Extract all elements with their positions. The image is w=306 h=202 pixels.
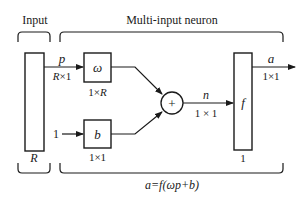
input-size-label: R xyxy=(29,151,38,165)
bias-dims: 1×1 xyxy=(89,151,106,163)
output-symbol: a xyxy=(268,51,275,66)
input-p-label: p xyxy=(58,51,66,66)
transfer-symbol: f xyxy=(241,95,247,110)
input-top-bracket xyxy=(18,32,50,42)
weight-to-sum-arrow xyxy=(111,67,162,94)
neuron-section-label: Multi-input neuron xyxy=(126,13,218,27)
neuron-formula: a=f(ωp+b) xyxy=(145,178,199,192)
neuron-bottom-bracket xyxy=(60,163,283,173)
bias-to-sum-arrow xyxy=(111,112,162,134)
weight-dims: 1×R xyxy=(88,86,107,98)
bias-symbol: b xyxy=(94,127,101,142)
neuron-top-bracket xyxy=(60,32,283,42)
net-input-dims: 1 × 1 xyxy=(195,107,218,119)
neuron-diagram: Input Multi-input neuron p R×1 ω 1×R 1 b… xyxy=(0,0,306,202)
input-p-dims: R×1 xyxy=(52,70,71,82)
input-vector-block xyxy=(25,53,44,151)
input-section-label: Input xyxy=(22,13,48,27)
transfer-size-label: 1 xyxy=(240,152,246,164)
summer-plus-icon: + xyxy=(168,96,175,111)
net-input-symbol: n xyxy=(203,88,209,102)
output-dims: 1×1 xyxy=(262,70,279,82)
bias-input-label: 1 xyxy=(53,127,59,141)
weight-symbol: ω xyxy=(93,60,102,75)
